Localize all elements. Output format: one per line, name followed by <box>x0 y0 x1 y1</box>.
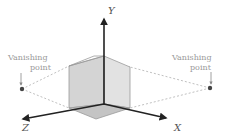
cube-right-face <box>104 56 130 108</box>
right-vp-label-line2: point <box>190 63 212 72</box>
x-axis-label: X <box>173 122 182 133</box>
z-axis-label: Z <box>21 122 30 133</box>
left-vanishing-point <box>20 73 24 91</box>
vanishing-point-dot <box>208 86 212 90</box>
right-vanishing-point <box>208 72 212 90</box>
y-axis-label: Y <box>108 5 116 16</box>
right-vp-label-line1: Vanishing <box>171 53 212 62</box>
perspective-diagram: Vanishing point Vanishing point Y Z X <box>0 0 225 138</box>
left-vp-label-line2: point <box>30 63 52 72</box>
vanishing-point-dot <box>20 87 24 91</box>
left-vp-label-line1: Vanishing <box>7 53 48 62</box>
